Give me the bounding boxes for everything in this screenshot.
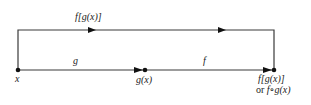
edge-g-arrow-icon: [134, 67, 143, 73]
node-fgx-sublabel-expr: f∘g(x): [267, 84, 291, 96]
node-gx-dot: [143, 68, 148, 73]
node-fgx-sublabel: or f∘g(x): [256, 84, 291, 96]
top-arrow-1-icon: [88, 27, 96, 33]
node-fgx-sublabel-prefix: or: [256, 84, 267, 95]
edge-top-label: f[g(x)]: [75, 11, 102, 23]
node-x-dot: [16, 68, 21, 73]
node-x-label: x: [14, 73, 20, 84]
top-route-path: [18, 30, 274, 70]
node-fgx-dot: [272, 68, 277, 73]
edge-f-label: f: [203, 55, 207, 66]
top-arrow-2-icon: [218, 27, 226, 33]
node-gx-label: g(x): [136, 74, 153, 86]
edge-g-label: g: [73, 55, 78, 66]
composition-diagram: f[g(x)] g f x g(x) f[g(x)] or f∘g(x): [0, 0, 311, 105]
